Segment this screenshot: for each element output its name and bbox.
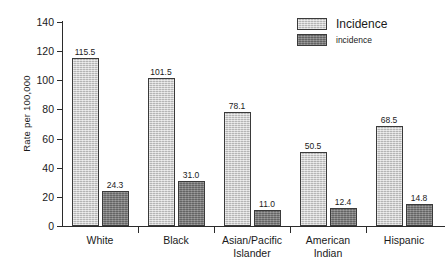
x-axis-category-label: Black <box>138 234 214 247</box>
bar-value-label: 78.1 <box>229 101 246 111</box>
legend-swatch-dark <box>297 34 327 46</box>
x-axis-category-line: Hispanic <box>366 234 442 247</box>
y-axis-tick-label: 80 <box>42 103 54 115</box>
bar-group: 78.111.0 <box>214 22 290 226</box>
chart-legend: Incidence incidence <box>297 16 387 48</box>
y-axis-tick-label: 140 <box>36 16 54 28</box>
legend-label-primary: Incidence <box>336 17 387 31</box>
legend-label-secondary: incidence <box>336 35 372 45</box>
bar-group: 115.524.3 <box>62 22 138 226</box>
bar: 101.5 <box>148 78 175 226</box>
y-axis-tick-label: 60 <box>42 133 54 145</box>
x-axis-tick <box>290 227 291 233</box>
bar-group: 50.512.4 <box>290 22 366 226</box>
bar-value-label: 12.4 <box>335 197 352 207</box>
bar: 11.0 <box>254 210 281 226</box>
bar-value-label: 31.0 <box>183 170 200 180</box>
plot-area: 020406080100120140115.524.3101.531.078.1… <box>62 22 442 226</box>
y-axis-tick-label: 40 <box>42 162 54 174</box>
legend-item-incidence-primary: Incidence <box>297 16 387 32</box>
x-axis-category-line: Asian/Pacific <box>214 234 290 247</box>
bar: 68.5 <box>376 126 403 226</box>
bar: 31.0 <box>178 181 205 226</box>
legend-swatch-light <box>297 18 327 30</box>
x-axis-category-line: White <box>62 234 138 247</box>
bar-value-label: 101.5 <box>150 67 171 77</box>
bar-value-label: 11.0 <box>259 199 275 209</box>
x-axis-tick <box>366 227 367 233</box>
x-axis-category-label: AmericanIndian <box>290 234 366 259</box>
bar: 115.5 <box>72 58 99 226</box>
bar: 14.8 <box>406 204 433 226</box>
bar-group: 101.531.0 <box>138 22 214 226</box>
bar-chart: Rate per 100,000 020406080100120140115.5… <box>0 0 448 265</box>
x-axis-category-line: Islander <box>214 247 290 260</box>
bar-value-label: 115.5 <box>75 47 96 57</box>
bar: 24.3 <box>102 191 129 226</box>
bar: 78.1 <box>224 112 251 226</box>
bar-value-label: 50.5 <box>305 141 322 151</box>
x-axis-tick <box>138 227 139 233</box>
x-axis-category-label: Asian/PacificIslander <box>214 234 290 259</box>
x-axis-category-label: Hispanic <box>366 234 442 247</box>
bar-value-label: 14.8 <box>411 193 428 203</box>
x-axis-category-line: Indian <box>290 247 366 260</box>
bar-value-label: 68.5 <box>381 115 398 125</box>
x-axis-category-label: White <box>62 234 138 247</box>
bar: 12.4 <box>330 208 357 226</box>
y-axis-tick-label: 120 <box>36 45 54 57</box>
y-axis-tick <box>57 226 62 227</box>
x-axis-category-line: Black <box>138 234 214 247</box>
y-axis-title: Rate per 100,000 <box>21 44 32 184</box>
x-axis-line <box>62 226 445 227</box>
x-axis-tick <box>214 227 215 233</box>
bar: 50.5 <box>300 152 327 226</box>
bar-value-label: 24.3 <box>107 180 124 190</box>
bar-group: 68.514.8 <box>366 22 442 226</box>
y-axis-tick-label: 20 <box>42 191 54 203</box>
y-axis-tick-label: 0 <box>48 220 54 232</box>
y-axis-tick-label: 100 <box>36 74 54 86</box>
x-axis-category-line: American <box>290 234 366 247</box>
legend-item-incidence-secondary: incidence <box>297 32 387 48</box>
